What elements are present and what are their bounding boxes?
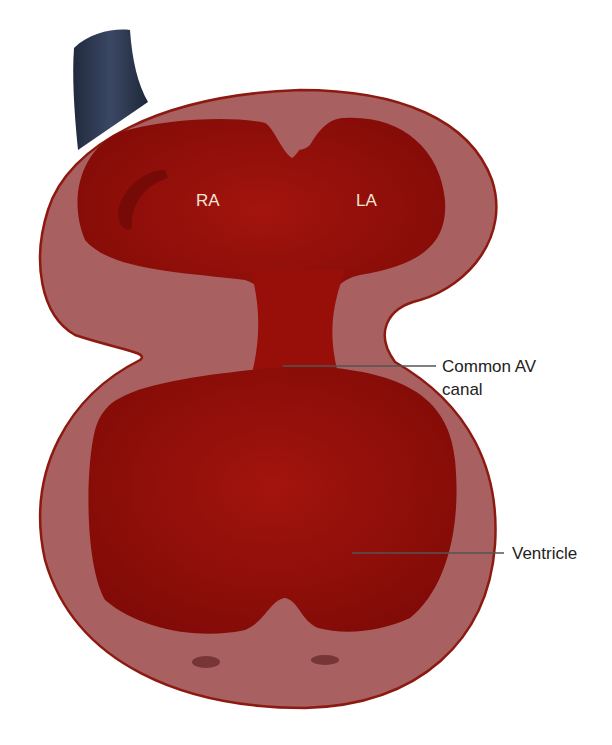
label-ventricle: Ventricle — [512, 544, 577, 563]
ventricle-cavity — [88, 367, 456, 634]
heart-diagram: RA LA Common AV canal Ventricle — [0, 0, 612, 745]
label-la: LA — [356, 191, 377, 210]
av-canal-channel — [250, 270, 345, 380]
label-av-canal-line2: canal — [442, 380, 483, 399]
wall-mark-left — [192, 656, 220, 668]
wall-mark-right — [311, 655, 339, 665]
label-av-canal-line1: Common AV — [442, 357, 537, 376]
label-ra: RA — [196, 191, 220, 210]
